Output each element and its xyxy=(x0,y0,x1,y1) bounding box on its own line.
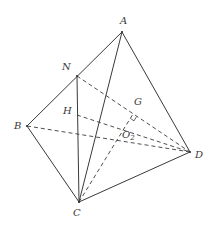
dashed-edges xyxy=(27,76,190,202)
label-G: G xyxy=(134,97,142,107)
edge-BD xyxy=(27,126,190,152)
label-D: D xyxy=(195,150,203,160)
vertex-dots xyxy=(26,31,191,203)
solid-edges xyxy=(27,32,190,202)
vertex-B xyxy=(26,125,28,127)
label-O2-main: O xyxy=(122,129,130,140)
edge-AB xyxy=(27,32,122,126)
vertex-A xyxy=(121,31,123,33)
label-A: A xyxy=(120,16,127,26)
tetrahedron-diagram xyxy=(0,0,216,235)
label-H: H xyxy=(63,106,72,116)
vertex-D xyxy=(189,151,191,153)
edge-NC xyxy=(77,76,79,202)
label-O2-subscript: 2 xyxy=(130,134,134,142)
label-O2: O2 xyxy=(122,130,135,142)
label-B: B xyxy=(14,121,21,131)
vertex-N xyxy=(76,75,78,77)
vertex-C xyxy=(78,201,80,203)
edge-AC xyxy=(79,32,122,202)
label-C: C xyxy=(73,208,81,218)
edge-BC xyxy=(27,126,79,202)
label-N: N xyxy=(62,62,71,72)
edge-CD xyxy=(79,152,190,202)
edge-CG xyxy=(79,114,133,202)
